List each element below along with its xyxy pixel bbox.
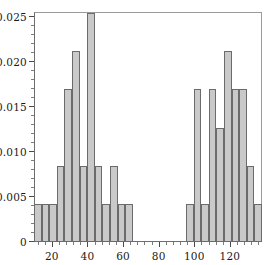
x-axis-minor-tick <box>244 242 245 245</box>
x-axis-minor-tick <box>66 242 67 245</box>
x-axis-minor-tick <box>187 242 188 245</box>
y-axis-minor-tick <box>31 187 34 188</box>
bars-container <box>34 12 262 242</box>
y-axis-tick <box>29 16 34 17</box>
histogram-bar <box>239 89 247 242</box>
y-axis-tick-label: 0.010 <box>0 146 27 158</box>
y-axis-minor-tick <box>31 43 34 44</box>
x-axis-minor-tick <box>237 242 238 245</box>
histogram-bar <box>232 89 240 242</box>
histogram-bar <box>209 89 217 242</box>
histogram-bar <box>201 204 209 242</box>
y-axis-tick <box>29 241 34 242</box>
x-axis-minor-tick <box>144 242 145 245</box>
x-axis-minor-tick <box>59 242 60 245</box>
histogram-bar <box>80 166 88 242</box>
y-axis-tick <box>29 106 34 107</box>
x-axis-minor-tick <box>173 242 174 245</box>
histogram-bar <box>254 204 262 242</box>
x-axis-minor-tick <box>152 242 153 245</box>
histogram-bar <box>87 13 95 242</box>
y-axis-tick-label: 0.015 <box>0 101 27 113</box>
y-axis-minor-tick <box>31 133 34 134</box>
y-axis-minor-tick <box>31 178 34 179</box>
histogram-figure: 00.0050.0100.0150.0200.025 2040608010012… <box>0 0 267 265</box>
x-axis-tick-label: 120 <box>220 250 241 262</box>
x-axis-tick-label: 80 <box>152 250 166 262</box>
x-axis-minor-tick <box>95 242 96 245</box>
y-axis-minor-tick <box>31 214 34 215</box>
y-axis-tick-label: 0 <box>20 236 27 248</box>
x-axis-minor-tick <box>166 242 167 245</box>
histogram-bar <box>118 204 126 242</box>
x-axis-tick-label: 60 <box>116 250 130 262</box>
x-axis-minor-tick <box>251 242 252 245</box>
x-axis-tick <box>123 242 124 247</box>
histogram-bar <box>186 204 194 242</box>
histogram-bar <box>34 204 42 242</box>
x-axis-tick-label: 100 <box>184 250 205 262</box>
histogram-bar <box>110 166 118 242</box>
x-axis-tick <box>159 242 160 247</box>
y-axis-minor-tick <box>31 70 34 71</box>
y-axis-tick <box>29 196 34 197</box>
x-axis-minor-tick <box>130 242 131 245</box>
y-axis-minor-tick <box>31 34 34 35</box>
y-axis-minor-tick <box>31 88 34 89</box>
y-axis-tick-label: 0.005 <box>0 191 27 203</box>
y-axis-tick <box>29 151 34 152</box>
x-axis-minor-tick <box>38 242 39 245</box>
y-axis-minor-tick <box>31 223 34 224</box>
x-axis-minor-tick <box>201 242 202 245</box>
x-axis-minor-tick <box>102 242 103 245</box>
x-axis-tick-label: 20 <box>45 250 59 262</box>
x-axis-minor-tick <box>73 242 74 245</box>
histogram-bar <box>125 204 133 242</box>
histogram-bar <box>224 51 232 242</box>
y-axis-minor-tick <box>31 79 34 80</box>
y-axis-minor-tick <box>31 115 34 116</box>
x-axis-minor-tick <box>109 242 110 245</box>
x-axis-tick <box>52 242 53 247</box>
histogram-bar <box>42 204 50 242</box>
histogram-bar <box>95 166 103 242</box>
histogram-bar <box>57 166 65 242</box>
y-axis-tick <box>29 61 34 62</box>
x-axis-minor-tick <box>209 242 210 245</box>
plot-area: 00.0050.0100.0150.0200.025 2040608010012… <box>34 12 262 242</box>
histogram-bar <box>247 166 255 242</box>
y-axis-tick-label: 0.025 <box>0 11 27 23</box>
x-axis-tick <box>87 242 88 247</box>
y-axis-minor-tick <box>31 124 34 125</box>
y-axis-minor-tick <box>31 52 34 53</box>
x-axis-minor-tick <box>137 242 138 245</box>
x-axis-minor-tick <box>223 242 224 245</box>
x-axis-minor-tick <box>180 242 181 245</box>
histogram-bar <box>194 89 202 242</box>
histogram-bar <box>72 51 80 242</box>
histogram-bar <box>102 204 110 242</box>
x-axis-minor-tick <box>45 242 46 245</box>
x-axis-minor-tick <box>80 242 81 245</box>
y-axis-minor-tick <box>31 169 34 170</box>
x-axis-minor-tick <box>116 242 117 245</box>
x-axis-minor-tick <box>258 242 259 245</box>
y-axis-minor-tick <box>31 97 34 98</box>
y-axis-minor-tick <box>31 205 34 206</box>
histogram-bar <box>216 128 224 242</box>
histogram-bar <box>64 89 72 242</box>
histogram-bar <box>49 204 57 242</box>
y-axis-minor-tick <box>31 232 34 233</box>
x-axis-tick <box>230 242 231 247</box>
y-axis-minor-tick <box>31 142 34 143</box>
x-axis-tick <box>194 242 195 247</box>
y-axis-tick-label: 0.020 <box>0 56 27 68</box>
y-axis-minor-tick <box>31 160 34 161</box>
x-axis-minor-tick <box>216 242 217 245</box>
y-axis-minor-tick <box>31 25 34 26</box>
x-axis-tick-label: 40 <box>81 250 95 262</box>
